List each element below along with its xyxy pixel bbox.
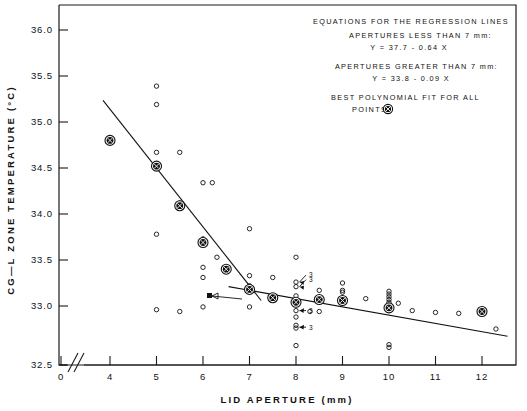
pointer-arrow-annotation [207, 293, 242, 299]
data-point [178, 309, 182, 313]
data-point [396, 301, 400, 305]
data-point [294, 280, 298, 284]
polynomial-fit-point [384, 303, 394, 313]
legend-line-6: POINTS [352, 105, 387, 114]
x-tick-label: 8 [293, 371, 299, 382]
data-point [364, 296, 368, 300]
plot-frame [59, 5, 516, 365]
data-point [247, 273, 251, 277]
polynomial-fit-point [198, 238, 208, 248]
data-point [210, 181, 214, 185]
x-axis-tick-labels: 0456789101112 [58, 371, 488, 382]
data-point [201, 275, 205, 279]
x-tick-label: 4 [107, 371, 113, 382]
data-point [317, 309, 321, 313]
x-axis-ticks [61, 356, 482, 365]
data-point [215, 255, 219, 259]
data-point [457, 311, 461, 315]
y-tick-label: 34.5 [31, 162, 53, 173]
data-point [294, 255, 298, 259]
polynomial-fit-point [314, 295, 324, 305]
data-point [154, 84, 158, 88]
data-point [178, 150, 182, 154]
polynomial-fit-point [175, 201, 185, 211]
x-tick-label: 9 [339, 371, 345, 382]
x-tick-label: 10 [383, 371, 395, 382]
circled-x-marker-icon [383, 104, 392, 113]
data-point [294, 284, 298, 288]
multiplicity-count: 3 [309, 307, 313, 314]
legend-line-3: APERTURES GREATER THAN 7 mm: [335, 62, 498, 71]
regression-line [103, 100, 261, 300]
y-axis-ticks [59, 30, 68, 365]
legend-line-1: APERTURES LESS THAN 7 mm: [349, 31, 492, 40]
x-tick-label: 11 [430, 371, 442, 382]
legend-line-0: EQUATIONS FOR THE REGRESSION LINES [313, 17, 509, 26]
y-axis-tick-labels: 32.533.033.534.034.535.035.536.0 [31, 24, 53, 370]
equations-legend-block: EQUATIONS FOR THE REGRESSION LINES APERT… [313, 17, 509, 114]
figure-scatter-plot: 32.533.033.534.034.535.035.536.0 0456789… [0, 0, 527, 411]
data-point [294, 308, 298, 312]
data-point [410, 308, 414, 312]
polynomial-fit-point [221, 264, 231, 274]
x-axis-title: LID APERTURE (mm) [220, 394, 353, 405]
y-axis-title: CG—L ZONE TEMPERATURE (°C) [5, 85, 16, 294]
data-points-circled-x [105, 135, 487, 316]
data-point [294, 326, 298, 330]
legend-line-5: BEST POLYNOMIAL FIT FOR ALL [331, 93, 480, 102]
data-point [154, 307, 158, 311]
polynomial-fit-point [477, 307, 487, 317]
multiplicity-annotation: 3 [300, 307, 314, 314]
data-point [294, 343, 298, 347]
data-point [317, 288, 321, 292]
x-tick-label: 12 [476, 371, 488, 382]
y-tick-label: 35.0 [31, 116, 53, 127]
y-tick-label: 35.5 [31, 70, 53, 81]
data-point [340, 281, 344, 285]
x-tick-label: 5 [153, 371, 159, 382]
y-tick-label: 32.5 [31, 359, 53, 370]
data-point [247, 305, 251, 309]
polynomial-fit-point [245, 284, 255, 294]
data-point [201, 305, 205, 309]
x-tick-label: 6 [200, 371, 206, 382]
data-point [494, 327, 498, 331]
y-tick-label: 34.0 [31, 208, 53, 219]
data-point [154, 102, 158, 106]
data-point [271, 275, 275, 279]
polynomial-fit-point [291, 297, 301, 307]
legend-line-2: Y = 37.7 - 0.64 X [370, 43, 448, 52]
data-point [201, 181, 205, 185]
polynomial-fit-point [105, 135, 115, 145]
x-tick-label: 7 [246, 371, 252, 382]
regression-lines [103, 100, 508, 336]
polynomial-fit-point [152, 161, 162, 171]
y-tick-label: 36.0 [31, 24, 53, 35]
polynomial-fit-point [338, 295, 348, 305]
x-tick-label: 0 [58, 371, 64, 382]
legend-line-4: Y = 33.8 - 0.09 X [372, 74, 450, 83]
data-point [154, 150, 158, 154]
data-point [201, 265, 205, 269]
multiplicity-count: 3 [309, 324, 313, 331]
plot-canvas: 32.533.033.534.034.535.035.536.0 0456789… [0, 0, 527, 411]
data-point [433, 310, 437, 314]
data-point [247, 227, 251, 231]
data-point [294, 315, 298, 319]
y-tick-label: 33.0 [31, 300, 53, 311]
x-axis-break-marks [59, 353, 516, 372]
data-point [154, 232, 158, 236]
data-point [387, 345, 391, 349]
multiplicity-annotation: 3 [300, 324, 314, 331]
polynomial-fit-point [268, 293, 278, 303]
y-tick-label: 33.5 [31, 254, 53, 265]
multiplicity-count: 3 [309, 276, 313, 283]
